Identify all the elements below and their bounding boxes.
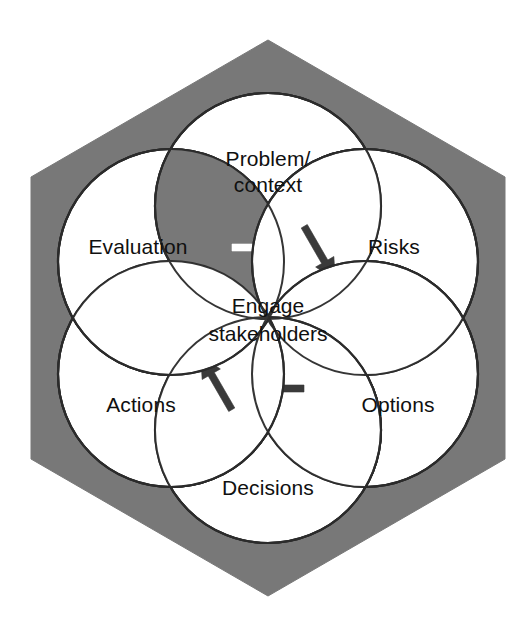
center-label-line1: Engage <box>232 294 304 317</box>
node-label-actions: Actions <box>106 393 176 416</box>
node-label-options: Options <box>361 393 434 416</box>
hexagon-circles-diagram: Problem/ context Risks Options Decisions… <box>0 0 530 638</box>
node-label-decisions: Decisions <box>222 476 314 499</box>
node-label-evaluation: Evaluation <box>88 235 187 258</box>
diagram-canvas: Problem/ context Risks Options Decisions… <box>0 0 530 638</box>
node-label-risks: Risks <box>368 235 420 258</box>
label-problem-context-line2: context <box>234 173 302 196</box>
label-problem-context-line1: Problem/ <box>226 147 311 170</box>
center-label-line2: stakeholders <box>208 322 327 345</box>
